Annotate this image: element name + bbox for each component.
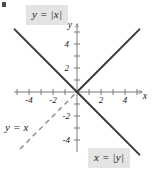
coordinate-plot: x y -4 -2 2 4 4 2 -2 -4: [0, 0, 156, 172]
y-tick-label: 2: [65, 63, 70, 73]
y-tick-label: 4: [65, 39, 70, 49]
x-tick-label: -2: [49, 95, 57, 105]
curve-y-abs-x-right: [77, 29, 139, 92]
annotation-y-eq-x-text: y = x: [5, 121, 29, 133]
x-tick-label: 2: [99, 95, 104, 105]
annotation-y-equals-abs-x: y = |x|: [26, 5, 68, 25]
curve-x-abs-y-lower: [77, 92, 139, 155]
math-figure: x y -4 -2 2 4 4 2 -2 -4 y = |x| x = |y| …: [0, 0, 156, 172]
annotation-x-abs-y-text: x = |y|: [94, 151, 124, 163]
annotation-y-equals-x: y = x: [5, 122, 29, 133]
y-tick-label: -4: [63, 135, 71, 145]
x-tick-label: -4: [25, 95, 33, 105]
x-axis-label: x: [142, 90, 148, 101]
annotation-x-equals-abs-y: x = |y|: [88, 148, 130, 168]
x-tick-label: 4: [123, 95, 128, 105]
y-tick-label: -2: [63, 111, 71, 121]
annotation-y-abs-x-text: y = |x|: [32, 8, 62, 20]
